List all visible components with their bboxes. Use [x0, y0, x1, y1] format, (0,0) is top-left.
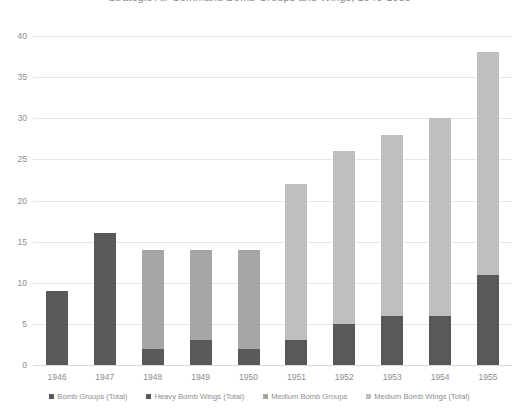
bar-segment[interactable] [381, 135, 403, 316]
bar-segment[interactable] [333, 324, 355, 365]
bar-segment[interactable] [429, 118, 451, 315]
legend-item[interactable]: Medium Bomb Groups [263, 392, 347, 401]
gridline-0: 0 [33, 365, 512, 366]
y-axis-tick: 40 [18, 31, 27, 41]
bar-stack[interactable] [238, 250, 260, 365]
bar-segment[interactable] [477, 52, 499, 274]
bar-group-1953[interactable]: 1953 [368, 36, 416, 365]
bar-group-1951[interactable]: 1951 [273, 36, 321, 365]
x-axis-tick: 1946 [47, 372, 66, 382]
bar-group-1947[interactable]: 1947 [81, 36, 129, 365]
bar-stack[interactable] [285, 184, 307, 365]
bar-stack[interactable] [429, 118, 451, 365]
bar-segment[interactable] [429, 316, 451, 365]
bar-segment[interactable] [94, 233, 116, 365]
bar-group-1948[interactable]: 1948 [129, 36, 177, 365]
plot-area: 0510152025303540 19461947194819491950195… [33, 36, 512, 365]
legend-swatch-icon [366, 394, 371, 399]
bar-segment[interactable] [190, 250, 212, 340]
x-axis-tick: 1953 [383, 372, 402, 382]
bar-segment[interactable] [238, 349, 260, 365]
legend-swatch-icon [146, 394, 151, 399]
y-axis-tick: 25 [18, 154, 27, 164]
legend-item[interactable]: Bomb Groups (Total) [49, 392, 127, 401]
x-axis-tick: 1950 [239, 372, 258, 382]
legend-item[interactable]: Heavy Bomb Wings (Total) [146, 392, 244, 401]
x-axis-tick: 1947 [95, 372, 114, 382]
bar-stack[interactable] [381, 135, 403, 365]
legend-item[interactable]: Medium Bomb Wings (Total) [366, 392, 469, 401]
bar-stack[interactable] [46, 291, 68, 365]
bar-group-1950[interactable]: 1950 [225, 36, 273, 365]
bar-group-1949[interactable]: 1949 [177, 36, 225, 365]
legend-swatch-icon [263, 394, 268, 399]
bar-segment[interactable] [238, 250, 260, 349]
x-axis-tick: 1955 [479, 372, 498, 382]
x-axis-tick: 1954 [431, 372, 450, 382]
y-axis-tick: 5 [22, 319, 27, 329]
legend-label: Medium Bomb Groups [271, 392, 347, 401]
bar-segment[interactable] [381, 316, 403, 365]
bar-group-1952[interactable]: 1952 [320, 36, 368, 365]
bar-segment[interactable] [333, 151, 355, 324]
legend-label: Medium Bomb Wings (Total) [374, 392, 469, 401]
bar-stack[interactable] [477, 52, 499, 365]
bar-stack[interactable] [94, 233, 116, 365]
x-axis-tick: 1951 [287, 372, 306, 382]
x-axis-tick: 1952 [335, 372, 354, 382]
x-axis-tick: 1949 [191, 372, 210, 382]
y-axis-tick: 35 [18, 72, 27, 82]
bar-segment[interactable] [190, 340, 212, 365]
bar-chart: Strategic Air Command Bomb Groups and Wi… [0, 0, 519, 414]
bar-segment[interactable] [477, 275, 499, 365]
x-axis-tick: 1948 [143, 372, 162, 382]
legend-label: Bomb Groups (Total) [57, 392, 127, 401]
bar-group-1946[interactable]: 1946 [33, 36, 81, 365]
legend-label: Heavy Bomb Wings (Total) [154, 392, 244, 401]
bars-layer: 1946194719481949195019511952195319541955 [33, 36, 512, 365]
bar-segment[interactable] [142, 250, 164, 349]
chart-title: Strategic Air Command Bomb Groups and Wi… [0, 0, 519, 3]
y-axis-tick: 10 [18, 278, 27, 288]
y-axis-tick: 20 [18, 196, 27, 206]
y-axis-tick: 0 [22, 360, 27, 370]
bar-stack[interactable] [142, 250, 164, 365]
legend-swatch-icon [49, 394, 54, 399]
bar-group-1955[interactable]: 1955 [464, 36, 512, 365]
bar-stack[interactable] [190, 250, 212, 365]
y-axis-tick: 30 [18, 113, 27, 123]
bar-segment[interactable] [142, 349, 164, 365]
bar-segment[interactable] [285, 184, 307, 340]
bar-stack[interactable] [333, 151, 355, 365]
bar-segment[interactable] [285, 340, 307, 365]
y-axis-tick: 15 [18, 237, 27, 247]
chart-legend: Bomb Groups (Total)Heavy Bomb Wings (Tot… [0, 392, 519, 401]
bar-segment[interactable] [46, 291, 68, 365]
bar-group-1954[interactable]: 1954 [416, 36, 464, 365]
